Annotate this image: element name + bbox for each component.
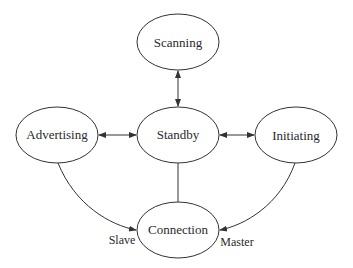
node-label-initiating: Initiating — [272, 128, 320, 144]
edge-advertising-connection — [58, 163, 136, 230]
node-label-standby: Standby — [157, 127, 200, 143]
node-label-scanning: Scanning — [154, 35, 202, 51]
state-diagram: Scanning Advertising Standby Initiating … — [0, 0, 353, 268]
edge-label-master: Master — [220, 235, 253, 250]
node-label-advertising: Advertising — [26, 127, 87, 143]
edge-label-slave: Slave — [109, 233, 136, 248]
node-label-connection: Connection — [148, 222, 208, 238]
edge-initiating-connection — [220, 163, 295, 230]
